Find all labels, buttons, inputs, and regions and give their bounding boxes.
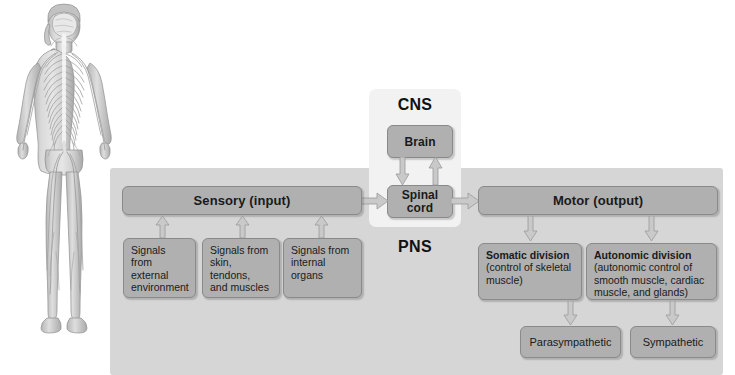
sensory-source-internal-organs-box[interactable]: Signals from internal organs <box>283 238 362 298</box>
sensory-to-spinal-cord-arrow <box>360 192 389 210</box>
brain-to-spinal-cord-arrow <box>395 157 410 186</box>
motor-output-label: Motor (output) <box>553 193 643 208</box>
diagram-canvas: CNS PNS Brain Spinal cord Sensory (input… <box>0 0 735 375</box>
spinal-cord-label-line2: cord <box>407 202 433 215</box>
skin-signals-to-sensory-arrow <box>235 216 250 239</box>
somatic-division-detail-line2: muscle) <box>486 274 523 286</box>
sensory-source-skin-tendons-muscles-box[interactable]: Signals from skin, tendons, and muscles <box>202 238 280 298</box>
spinal-cord-to-brain-arrow <box>428 157 443 186</box>
sensory-source-line1: Signals from <box>291 244 349 256</box>
spinal-cord-box[interactable]: Spinal cord <box>387 185 453 218</box>
sensory-input-label: Sensory (input) <box>194 193 291 208</box>
sensory-source-line3: and muscles <box>210 281 269 293</box>
somatic-division-title: Somatic division <box>486 249 569 261</box>
sensory-source-line3: environment <box>131 281 189 293</box>
parasympathetic-label: Parasympathetic <box>530 336 612 348</box>
sensory-source-line1: Signals <box>131 244 165 256</box>
internal-signals-to-sensory-arrow <box>314 216 329 239</box>
motor-to-somatic-arrow <box>523 216 538 242</box>
sensory-source-line2: from external <box>131 256 189 281</box>
sympathetic-box[interactable]: Sympathetic <box>630 326 716 358</box>
pns-label: PNS <box>369 238 461 256</box>
autonomic-division-detail-line2: smooth muscle, cardiac <box>594 274 704 286</box>
sensory-input-box[interactable]: Sensory (input) <box>122 186 362 215</box>
sympathetic-label: Sympathetic <box>643 336 704 348</box>
sensory-source-external-environment-box[interactable]: Signals from external environment <box>123 238 196 298</box>
human-nervous-system-figure <box>8 2 120 372</box>
autonomic-division-title: Autonomic division <box>594 249 691 261</box>
autonomic-division-box[interactable]: Autonomic division (autonomic control of… <box>586 243 717 300</box>
brain-label: Brain <box>404 135 435 149</box>
autonomic-to-parasympathetic-arrow <box>563 301 578 326</box>
sensory-source-line2: internal organs <box>291 256 355 281</box>
sensory-source-line2: skin, tendons, <box>210 256 273 281</box>
autonomic-division-detail-line3: muscle, and glands) <box>594 286 688 298</box>
brain-box[interactable]: Brain <box>387 125 453 158</box>
spinal-cord-to-motor-arrow <box>451 192 480 210</box>
autonomic-to-sympathetic-arrow <box>665 301 680 326</box>
external-signals-to-sensory-arrow <box>155 216 170 239</box>
motor-to-autonomic-arrow <box>644 216 659 242</box>
motor-output-box[interactable]: Motor (output) <box>478 186 718 215</box>
cns-label: CNS <box>369 96 461 114</box>
autonomic-division-detail-line1: (autonomic control of <box>594 261 692 273</box>
sensory-source-line1: Signals from <box>210 244 268 256</box>
spinal-cord-label-line1: Spinal <box>402 189 439 202</box>
somatic-division-detail-line1: (control of skeletal <box>486 261 571 273</box>
somatic-division-box[interactable]: Somatic division (control of skeletal mu… <box>478 243 582 300</box>
parasympathetic-box[interactable]: Parasympathetic <box>520 326 621 358</box>
